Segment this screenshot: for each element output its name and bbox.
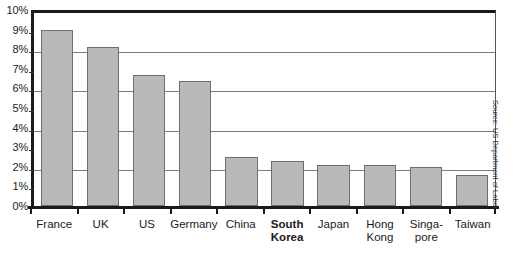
x-axis-label: UK xyxy=(77,216,123,256)
x-tick-slot xyxy=(217,209,264,214)
x-axis-label-line: Kong xyxy=(357,231,403,244)
bar-slot xyxy=(172,13,218,206)
bar[interactable] xyxy=(456,175,488,206)
x-axis-label-line: Korea xyxy=(264,231,310,244)
x-tick-slot xyxy=(310,209,357,214)
x-tick-mark xyxy=(309,209,311,214)
x-axis-label: China xyxy=(218,216,264,256)
x-axis-label-line: France xyxy=(31,218,77,231)
x-tick-slot xyxy=(403,209,450,214)
x-axis-label: Taiwan xyxy=(450,216,496,256)
bar-chart: 10%9%8%7%6%5%4%3%2%1%0% FranceUKUSGerman… xyxy=(0,0,529,258)
bar-slot xyxy=(34,13,80,206)
bar[interactable] xyxy=(225,157,257,206)
x-tick-slot xyxy=(264,209,311,214)
y-axis: 10%9%8%7%6%5%4%3%2%1%0% xyxy=(0,0,30,214)
x-tick-mark xyxy=(494,209,496,214)
bar[interactable] xyxy=(87,47,119,206)
bar-slot xyxy=(264,13,310,206)
plot-area xyxy=(31,10,496,206)
x-tick-mark xyxy=(402,209,404,214)
bar[interactable] xyxy=(41,30,73,206)
x-axis-label-line: Hong xyxy=(357,218,403,231)
x-axis-label-line: South xyxy=(264,218,310,231)
bar[interactable] xyxy=(133,75,165,206)
x-axis-label: Germany xyxy=(170,216,217,256)
bar-slot xyxy=(126,13,172,206)
y-tick-label: 2% xyxy=(13,161,29,172)
y-tick-label: 4% xyxy=(13,122,29,133)
bar[interactable] xyxy=(317,165,349,206)
x-axis-label-line: China xyxy=(218,218,264,231)
x-axis-label-line: Singa- xyxy=(403,218,449,231)
bar-slot xyxy=(403,13,449,206)
x-axis-label-line: pore xyxy=(403,231,449,244)
x-axis-label-line: Japan xyxy=(310,218,356,231)
x-tick-slot xyxy=(450,209,497,214)
y-tick-label: 3% xyxy=(13,142,29,153)
y-tick-label: 7% xyxy=(13,63,29,74)
bar[interactable] xyxy=(271,161,303,206)
x-axis-label-line: UK xyxy=(77,218,123,231)
x-tick-mark xyxy=(170,209,172,214)
x-tick-mark xyxy=(449,209,451,214)
x-axis-labels: FranceUKUSGermanyChinaSouthKoreaJapanHon… xyxy=(31,216,496,256)
x-tick-slot xyxy=(124,209,171,214)
bar-slot xyxy=(80,13,126,206)
x-tick-mark xyxy=(123,209,125,214)
bars-container xyxy=(34,13,495,206)
bar-slot xyxy=(218,13,264,206)
x-tick-slot xyxy=(357,209,404,214)
source-note: Source: US Department of Labor xyxy=(491,100,500,209)
x-axis-label-line: US xyxy=(124,218,170,231)
x-tick-mark xyxy=(77,209,79,214)
x-axis-label: SouthKorea xyxy=(264,216,310,256)
y-tick-label: 8% xyxy=(13,44,29,55)
y-tick-label: 6% xyxy=(13,83,29,94)
x-tick-slot xyxy=(31,209,78,214)
x-axis-ticks xyxy=(31,209,496,214)
x-axis-label: Singa-pore xyxy=(403,216,449,256)
x-axis-label: US xyxy=(124,216,170,256)
bar-slot xyxy=(357,13,403,206)
x-axis-label-line: Taiwan xyxy=(450,218,496,231)
y-tick-label: 0% xyxy=(13,201,29,212)
bar-slot xyxy=(449,13,495,206)
x-tick-mark xyxy=(263,209,265,214)
bar[interactable] xyxy=(179,81,211,206)
x-tick-slot xyxy=(171,209,218,214)
x-tick-mark xyxy=(356,209,358,214)
x-tick-mark xyxy=(30,209,32,214)
bar-slot xyxy=(311,13,357,206)
y-tick-label: 1% xyxy=(13,181,29,192)
y-tick-label: 9% xyxy=(13,24,29,35)
y-tick-label: 5% xyxy=(13,103,29,114)
x-axis-label-line: Germany xyxy=(170,218,217,231)
y-tick-label: 10% xyxy=(7,5,28,16)
x-axis-label: HongKong xyxy=(357,216,403,256)
x-tick-mark xyxy=(216,209,218,214)
x-tick-slot xyxy=(78,209,125,214)
x-axis-label: Japan xyxy=(310,216,356,256)
x-axis-label: France xyxy=(31,216,77,256)
bar[interactable] xyxy=(410,167,442,206)
bar[interactable] xyxy=(364,165,396,206)
